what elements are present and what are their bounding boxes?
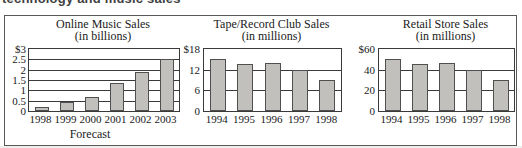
clipped-caption-text: technology and music sales: [2, 0, 181, 6]
figure-music-sales-charts: technology and music sales Online Music …: [0, 0, 522, 148]
clipped-caption: technology and music sales: [2, 0, 302, 7]
page-edge-strip: [0, 146, 522, 148]
charts-panel: [4, 15, 517, 146]
